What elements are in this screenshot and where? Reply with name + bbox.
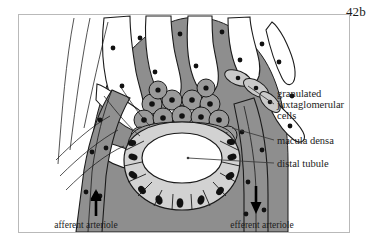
label-macula-densa: macula densa [277, 135, 334, 146]
label-distal-tubule: distal tubule [277, 158, 329, 169]
juxtaglomerular-apparatus-diagram: granulated juxtaglomerular cells macula … [0, 0, 372, 248]
distal-tubule [124, 122, 240, 210]
leader-endpoints [187, 157, 190, 160]
label-granulated-jg-cells-line3: cells [277, 110, 296, 121]
label-granulated-jg-cells-line1: granulated [277, 88, 322, 99]
label-efferent-arteriole: efferent arteriole [230, 220, 293, 230]
figure-root: 42b [0, 0, 372, 248]
label-granulated-jg-cells-line2: juxtaglomerular [276, 99, 345, 110]
distal-tubule-lumen [142, 133, 222, 183]
label-afferent-arteriole: afferent arteriole [54, 220, 117, 230]
